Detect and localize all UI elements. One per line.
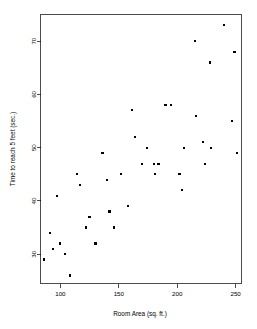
x-tick-label: 200 [172, 290, 183, 297]
data-point [233, 51, 235, 53]
y-tick-label: 60 [30, 90, 37, 97]
data-point [164, 104, 166, 106]
data-point [236, 152, 238, 154]
data-point [88, 216, 90, 218]
data-point [210, 147, 212, 149]
data-point [209, 61, 211, 63]
data-point [181, 189, 183, 191]
data-point [113, 226, 115, 228]
data-point [134, 136, 136, 138]
data-point [170, 104, 172, 106]
data-point [127, 205, 129, 207]
data-point [76, 173, 78, 175]
data-point [85, 226, 87, 228]
data-point [69, 274, 71, 276]
y-axis-title: Time to reach 5 feet (sec.) [9, 112, 17, 186]
data-point [108, 210, 110, 212]
data-point [154, 173, 156, 175]
y-tick-label: 30 [30, 250, 37, 257]
data-point [231, 120, 233, 122]
x-tick-label: 250 [230, 290, 241, 297]
y-tick-label: 50 [30, 144, 37, 151]
data-point [59, 242, 61, 244]
data-point [94, 242, 96, 244]
data-point [106, 179, 108, 181]
data-point [183, 147, 185, 149]
data-point [131, 109, 133, 111]
data-point [79, 184, 81, 186]
data-point [64, 253, 66, 255]
data-point [52, 248, 54, 250]
data-point [49, 232, 51, 234]
data-point [195, 115, 197, 117]
data-point [223, 24, 225, 26]
data-point [178, 173, 180, 175]
y-tick-label: 40 [30, 197, 37, 204]
figure-background [0, 0, 257, 329]
data-point [146, 147, 148, 149]
data-point [101, 152, 103, 154]
y-tick-label: 70 [30, 37, 37, 44]
x-axis-title: Room Area (sq. ft.) [113, 310, 167, 318]
data-point [204, 163, 206, 165]
x-tick-label: 150 [114, 290, 125, 297]
scatter-plot-figure: 100150200250 3040506070 Room Area (sq. f… [0, 0, 257, 329]
data-point [153, 163, 155, 165]
data-point [202, 141, 204, 143]
data-point [157, 163, 159, 165]
x-tick-label: 100 [55, 290, 66, 297]
data-point [194, 40, 196, 42]
data-point [43, 258, 45, 260]
data-point [141, 163, 143, 165]
data-point [56, 195, 58, 197]
plot-canvas: 100150200250 3040506070 Room Area (sq. f… [0, 0, 257, 329]
data-point [120, 173, 122, 175]
